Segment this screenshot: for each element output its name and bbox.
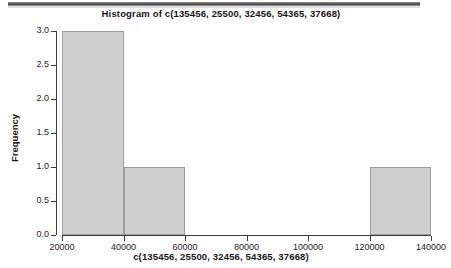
chart-title: Histogram of c(135456, 25500, 32456, 543… (0, 8, 442, 19)
y-tick-mark (51, 31, 56, 32)
histogram-bar (370, 167, 432, 235)
x-tick-mark (308, 236, 309, 241)
y-tick-label: 1.0 (19, 161, 49, 171)
y-tick-mark (51, 99, 56, 100)
y-tick-mark (51, 133, 56, 134)
x-tick-mark (124, 236, 125, 241)
x-tick-mark (370, 236, 371, 241)
histogram-bar (62, 31, 124, 235)
x-tick-label: 120000 (340, 242, 400, 252)
y-tick-label: 3.0 (19, 25, 49, 35)
y-tick-label: 1.5 (19, 127, 49, 137)
y-tick-mark (51, 201, 56, 202)
y-tick-label: 2.0 (19, 93, 49, 103)
x-tick-mark (185, 236, 186, 241)
x-tick-label: 80000 (217, 242, 277, 252)
x-tick-label: 60000 (155, 242, 215, 252)
x-tick-label: 140000 (401, 242, 451, 252)
y-tick-mark (51, 167, 56, 168)
y-axis-line (56, 31, 57, 235)
histogram-bar (124, 167, 186, 235)
y-tick-label: 2.5 (19, 59, 49, 69)
x-tick-label: 40000 (94, 242, 154, 252)
x-tick-mark (62, 236, 63, 241)
x-axis-title: c(135456, 25500, 32456, 54365, 37668) (0, 251, 442, 262)
x-tick-label: 100000 (278, 242, 338, 252)
x-tick-mark (247, 236, 248, 241)
y-tick-mark (51, 235, 56, 236)
y-axis-title: Frequency (8, 88, 22, 188)
x-tick-label: 20000 (32, 242, 92, 252)
y-tick-mark (51, 65, 56, 66)
y-tick-label: 0.0 (19, 229, 49, 239)
x-tick-mark (431, 236, 432, 241)
y-tick-label: 0.5 (19, 195, 49, 205)
